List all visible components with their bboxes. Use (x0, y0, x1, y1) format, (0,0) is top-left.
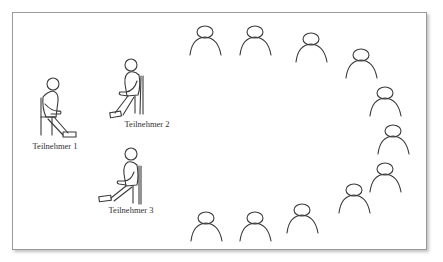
person-bust-icon (370, 163, 401, 192)
audience-group (190, 26, 409, 241)
person-bust-icon (287, 204, 318, 233)
person-bust-icon (240, 26, 271, 55)
person-bust-icon (346, 49, 377, 78)
participant-3-label: Teilnehmer 3 (109, 205, 154, 215)
person-bust-icon (191, 212, 222, 241)
participant-1-figure (41, 78, 76, 137)
participant-2-label: Teilnehmer 2 (125, 119, 170, 129)
person-bust-icon (240, 212, 271, 241)
person-bust-icon (378, 125, 409, 154)
participant-2-figure (110, 59, 143, 118)
seating-diagram (0, 0, 443, 262)
participant-1-label: Teilnehmer 1 (33, 141, 78, 151)
person-bust-icon (190, 26, 221, 55)
person-bust-icon (370, 87, 401, 116)
person-bust-icon (296, 33, 327, 62)
person-bust-icon (339, 184, 370, 213)
participant-3-figure (99, 148, 141, 204)
